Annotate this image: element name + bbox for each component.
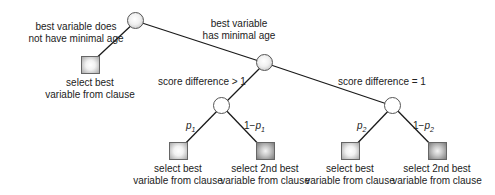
prob-label-1-minus-p1: 1−p1	[244, 120, 265, 136]
leaf-node-select-best-2	[341, 142, 360, 160]
label-line: select best	[40, 77, 140, 89]
leaf-node-select-best-0	[81, 56, 100, 74]
prob-prefix: 1−	[244, 120, 255, 131]
leaf-node-select-best-1	[169, 142, 188, 160]
leaf-label-3: select best variable from clause	[300, 163, 400, 187]
prob-sub: 1	[261, 126, 265, 133]
leaf-label-1: select best variable from clause	[128, 163, 228, 187]
label-line: select best	[128, 163, 228, 175]
score-diff-eq1-chance-node	[384, 97, 401, 114]
leaf-label-0: select best variable from clause	[40, 77, 140, 101]
prob-sub: 2	[363, 126, 367, 133]
label-line: select 2nd best	[387, 163, 487, 175]
leaf-node-select-2nd-best-2	[428, 142, 447, 160]
label-line: best variable does	[20, 21, 132, 33]
prob-label-p2: p2	[357, 120, 366, 136]
prob-sub: 1	[192, 126, 196, 133]
label-line: has minimal age	[196, 30, 282, 42]
label-line: variable from clause	[387, 175, 487, 187]
label-line: not have minimal age	[20, 33, 132, 45]
edge-label-not-minimal-age: best variable does not have minimal age	[20, 21, 132, 45]
edge-label-has-minimal-age: best variable has minimal age	[196, 18, 282, 42]
prob-label-1-minus-p2: 1−p2	[413, 120, 434, 136]
prob-sub: 2	[430, 126, 434, 133]
label-line: variable from clause	[300, 175, 400, 187]
minimal-age-decision-node	[256, 54, 273, 71]
score-diff-gt1-chance-node	[213, 97, 230, 114]
edge-label-score-diff-gt1: score difference > 1	[158, 76, 246, 88]
label-line: select best	[300, 163, 400, 175]
prob-prefix: 1−	[413, 120, 424, 131]
prob-label-p1: p1	[186, 120, 195, 136]
label-line: best variable	[196, 18, 282, 30]
edge-label-score-diff-eq1: score difference = 1	[338, 76, 426, 88]
label-line: variable from clause	[40, 89, 140, 101]
leaf-label-4: select 2nd best variable from clause	[387, 163, 487, 187]
label-line: variable from clause	[128, 175, 228, 187]
leaf-node-select-2nd-best-1	[256, 142, 275, 160]
